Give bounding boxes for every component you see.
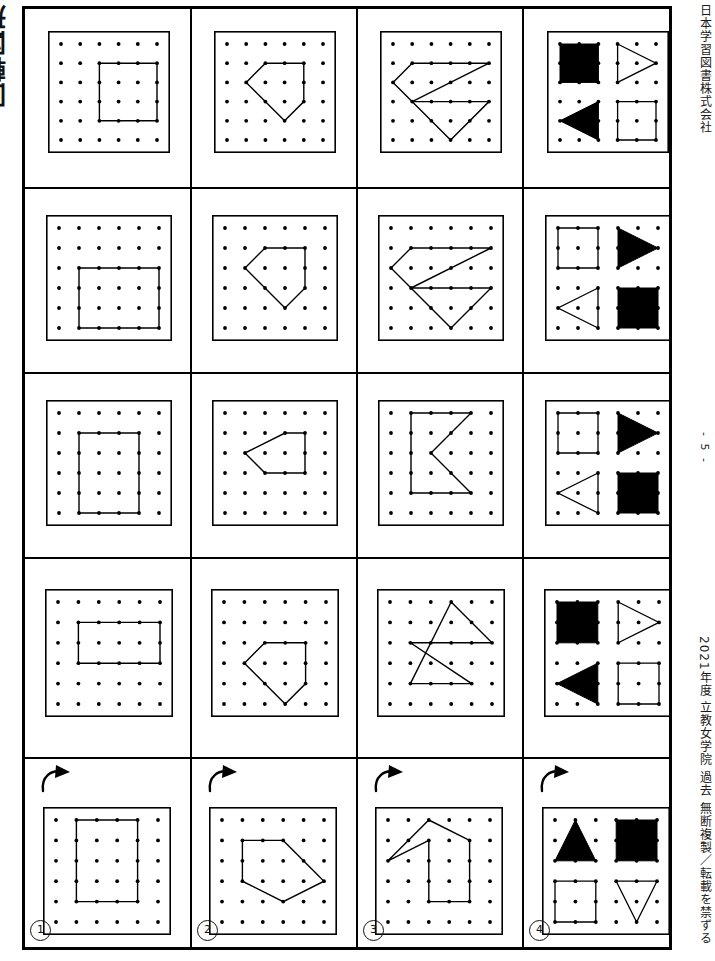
board-col4-row2[interactable] (545, 215, 669, 341)
board-col2-row2[interactable] (212, 215, 338, 341)
answer-cell-q4-opt1[interactable] (524, 9, 669, 189)
answer-cell-q4-opt2[interactable] (524, 189, 669, 374)
answer-cell-q1-opt1[interactable] (25, 9, 192, 189)
problem-cell-q2[interactable]: 2 (192, 759, 358, 947)
answer-cell-q4-opt4[interactable] (524, 559, 669, 759)
answer-cell-q4-opt3[interactable] (524, 374, 669, 559)
board-col4-problem[interactable] (542, 807, 669, 935)
answer-cell-q2-opt2[interactable] (192, 189, 358, 374)
board-col2-row3[interactable] (212, 400, 338, 526)
answer-cell-q3-opt2[interactable] (358, 189, 524, 374)
answer-cell-q3-opt4[interactable] (358, 559, 524, 759)
copyright-notice: 2021年度 立教女学院 過去 無断複製／転載を禁ずる (696, 636, 713, 945)
question-number-badge: 3 (363, 920, 384, 941)
board-col2-row1[interactable] (214, 31, 336, 153)
answer-cell-q2-opt1[interactable] (192, 9, 358, 189)
board-col3-row4[interactable] (377, 589, 505, 717)
answer-cell-q1-opt2[interactable] (25, 189, 192, 374)
quadrant-top-left-square-filled (560, 44, 598, 82)
quadrant-top-left-square-filled (557, 602, 598, 643)
question-number-badge: 2 (197, 920, 218, 941)
board-col3-problem[interactable] (375, 807, 503, 935)
answer-cell-q2-opt4[interactable] (192, 559, 358, 759)
problem-cell-q4[interactable]: 4 (524, 759, 669, 947)
board-col4-row1[interactable] (547, 31, 669, 153)
board-col1-row4[interactable] (45, 589, 173, 717)
question-number-badge: 1 (30, 920, 51, 941)
answer-cell-q1-opt4[interactable] (25, 559, 192, 759)
rotate-clockwise-arrow-icon (206, 765, 246, 799)
quadrant-bottom-right-square-filled (618, 288, 658, 328)
quadrant-bottom-right-square-filled (618, 473, 658, 513)
board-col4-row4[interactable] (544, 589, 669, 717)
board-col3-row3[interactable] (378, 400, 504, 526)
page-number: - 5 - (698, 432, 711, 464)
answer-cell-q3-opt1[interactable] (358, 9, 524, 189)
rotate-clockwise-arrow-icon (372, 765, 412, 799)
board-col1-row2[interactable] (46, 215, 172, 341)
board-col1-row1[interactable] (48, 31, 170, 153)
answer-cell-q1-opt3[interactable] (25, 374, 192, 559)
problem-cell-q3[interactable]: 3 (358, 759, 524, 947)
answer-cell-q2-opt3[interactable] (192, 374, 358, 559)
question-number-badge: 4 (529, 920, 550, 941)
problem-grid: 1234 (22, 6, 672, 950)
quadrant-top-right-square-filled (616, 820, 657, 861)
problem-cell-q1[interactable]: 1 (25, 759, 192, 947)
publisher-credit: 日本学習図書株式会社 (696, 4, 713, 134)
answer-cell-q3-opt3[interactable] (358, 374, 524, 559)
rotate-clockwise-arrow-icon (538, 765, 578, 799)
board-col3-row2[interactable] (378, 215, 504, 341)
board-col2-row4[interactable] (211, 589, 339, 717)
board-col2-problem[interactable] (209, 807, 337, 935)
board-col1-problem[interactable] (43, 807, 171, 935)
board-col1-row3[interactable] (46, 400, 172, 526)
board-col4-row3[interactable] (545, 400, 669, 526)
worksheet-page: 回転図形 日本学習図書株式会社 - 5 - 2021年度 立教女学院 過去 無断… (0, 0, 715, 961)
board-col3-row1[interactable] (380, 31, 502, 153)
rotate-clockwise-arrow-icon (39, 765, 79, 799)
